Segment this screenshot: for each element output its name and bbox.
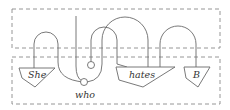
who-node — [81, 79, 88, 86]
unit-node — [88, 62, 95, 69]
upper-frame — [12, 9, 220, 48]
she-box: She — [19, 68, 55, 87]
who-label: who — [75, 89, 95, 100]
string-diagram: She hates B who — [0, 0, 230, 110]
wire-unit-hates — [91, 27, 127, 67]
hates-label: hates — [129, 69, 155, 80]
wire-top-who — [76, 16, 82, 81]
b-box: B — [184, 67, 210, 87]
b-label: B — [192, 69, 200, 80]
she-label: She — [28, 69, 47, 80]
wire-hates-b — [160, 26, 196, 67]
hates-box: hates — [116, 67, 175, 87]
